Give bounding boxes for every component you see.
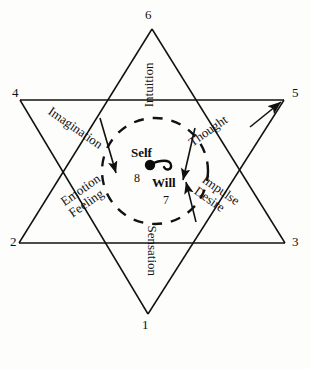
triangle-downward bbox=[20, 100, 284, 314]
vertex-number-4: 4 bbox=[12, 86, 19, 99]
triangle-upward bbox=[19, 29, 285, 243]
vertex-number-3: 3 bbox=[292, 235, 299, 248]
vertex-number-2: 2 bbox=[10, 235, 17, 248]
direction-arrows bbox=[100, 102, 281, 222]
arrow-to-vertex-5 bbox=[250, 102, 281, 127]
center-number-7: 7 bbox=[163, 194, 169, 206]
diagram-canvas: 6 5 3 1 2 4 Intuition Thought ImpulseDes… bbox=[0, 0, 311, 369]
arrow-inward-right-lower bbox=[186, 182, 196, 222]
vertex-number-6: 6 bbox=[145, 8, 152, 21]
vertex-number-5: 5 bbox=[292, 86, 299, 99]
center-number-8: 8 bbox=[134, 172, 140, 184]
ray-label-sensation: Sensation bbox=[145, 226, 159, 277]
center-label-self: Self bbox=[131, 146, 152, 159]
center-label-will: Will bbox=[152, 176, 176, 189]
self-dot bbox=[145, 160, 155, 170]
ray-label-intuition: Intuition bbox=[142, 62, 156, 107]
vertex-number-1: 1 bbox=[142, 318, 149, 331]
